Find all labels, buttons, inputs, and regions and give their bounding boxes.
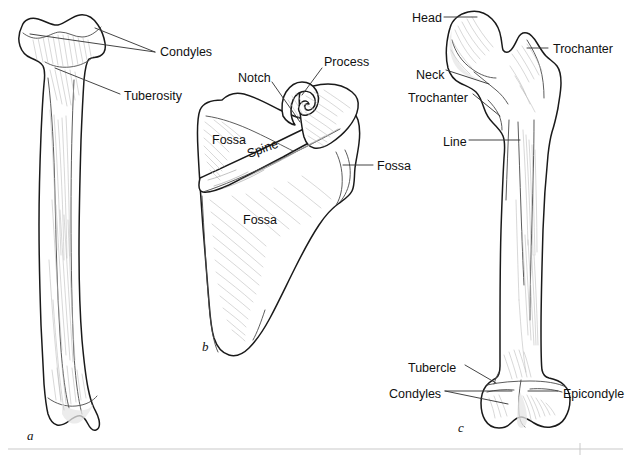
label-tuberosity: Tuberosity [124,89,183,103]
panel-letter-a: a [27,428,34,443]
label-neck: Neck [416,68,445,82]
label-condyles-tibia: Condyles [160,45,212,59]
label-line: Line [443,135,467,149]
label-head: Head [412,11,442,25]
anatomy-figure: Condyles Tuberosity Notch Process Fossa … [0,0,631,458]
label-tubercle: Tubercle [408,361,456,375]
label-fossa-glenoid: Fossa [377,159,411,173]
panel-letter-b: b [202,339,209,354]
panel-letter-c: c [458,420,464,435]
label-trochanter-lesser: Trochanter [408,91,468,105]
label-process: Process [324,55,369,69]
label-condyles-femur: Condyles [389,387,441,401]
label-epicondyle: Epicondyle [563,387,624,401]
label-fossa-supraspinous: Fossa [212,133,246,147]
label-fossa-infraspinous: Fossa [243,213,277,227]
label-trochanter-greater: Trochanter [553,42,613,56]
bone-illustration-canvas: Condyles Tuberosity Notch Process Fossa … [0,0,631,458]
label-notch: Notch [238,71,271,85]
